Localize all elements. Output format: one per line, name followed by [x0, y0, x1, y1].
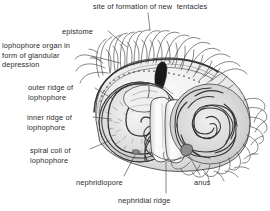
lophophore-illustration — [0, 0, 270, 211]
nephridiopore-pit — [133, 150, 140, 155]
artwork-body — [75, 13, 267, 193]
label-outer-ridge: outer ridge of lophophore — [28, 83, 73, 102]
label-spiral-coil: spiral coil of lophophore — [30, 146, 71, 165]
label-nephridiopore: nephridiopore — [76, 178, 123, 188]
label-site-of-formation: site of formation of new tentacles — [93, 2, 207, 12]
anatomical-figure: site of formation of new tentacles epist… — [0, 0, 270, 211]
label-nephridial-ridge: nephridial ridge — [118, 196, 170, 206]
label-lophophore-organ: lophophore organ in form of glandular de… — [2, 41, 70, 70]
label-anus: anus — [194, 178, 211, 188]
label-inner-ridge: inner ridge of lophophore — [27, 113, 72, 132]
label-epistome: epistome — [62, 27, 93, 37]
leader-site-of-formation — [148, 13, 150, 30]
